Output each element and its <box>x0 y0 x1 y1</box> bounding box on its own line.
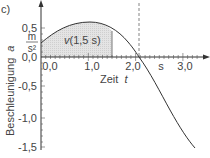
x-tick-label: 0,0 <box>42 60 57 72</box>
x-axis-title: Zeit t <box>100 73 128 85</box>
y-unit-denominator: s² <box>28 43 37 54</box>
acceleration-chart: c) 0,5 0,0 -0,5 -1,0 -1,5 m s² 0,0 1,0 2… <box>0 0 210 158</box>
y-tick-label: -1,5 <box>18 141 37 153</box>
x-tick-label: 3,0 <box>177 60 192 72</box>
area-annotation-label: v(1,5 s) <box>64 34 101 46</box>
x-unit-label: s <box>158 60 164 72</box>
panel-label: c) <box>1 3 10 15</box>
y-axis-arrow-icon <box>39 0 44 7</box>
y-tick-label: -0,5 <box>18 80 37 92</box>
x-tick-label: 1,0 <box>84 60 99 72</box>
x-tick-label: 2,0 <box>125 60 140 72</box>
y-unit-numerator: m <box>28 31 36 42</box>
x-axis-arrow-icon <box>203 55 210 60</box>
y-tick-label: -1,0 <box>18 112 37 124</box>
y-axis-title: Beschleunigung a <box>4 46 16 136</box>
